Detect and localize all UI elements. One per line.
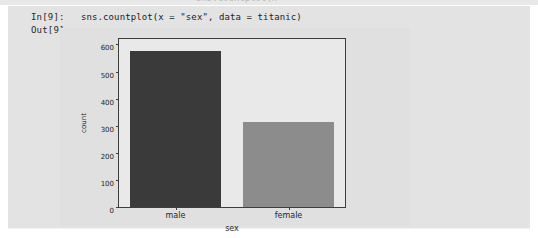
previous-cell-remnant: sns.countplot(x [0, 0, 538, 5]
y-tick-label-300: 300 [101, 126, 119, 134]
countplot-figure: count malefemale0100200300400500600 sex [60, 28, 410, 226]
plot-area [119, 39, 345, 207]
y-tick-label-200: 200 [101, 153, 119, 161]
code-source-line[interactable]: sns.countplot(x = "sex", data = titanic) [81, 12, 302, 22]
x-tick-label-male: male [166, 211, 186, 220]
y-tick-label-500: 500 [101, 72, 119, 80]
input-prompt-label: In[9]: [31, 12, 65, 22]
notebook-cell[interactable]: In[9]: sns.countplot(x = "sex", data = t… [8, 6, 530, 228]
y-tick-label-0: 0 [110, 207, 119, 215]
plot-axes: malefemale0100200300400500600 [118, 38, 346, 208]
bar-male [130, 51, 220, 207]
x-axis-label: sex [118, 224, 346, 233]
x-tick-label-female: female [275, 211, 303, 220]
bar-female [243, 122, 333, 207]
y-tick-label-600: 600 [101, 44, 119, 52]
y-tick-label-400: 400 [101, 99, 119, 107]
y-tick-label-100: 100 [101, 180, 119, 188]
x-tick-mark-female [289, 207, 290, 210]
previous-cell-ghost-text: sns.countplot(x [196, 0, 277, 3]
y-axis-label: count [80, 113, 88, 133]
x-tick-mark-male [176, 207, 177, 210]
